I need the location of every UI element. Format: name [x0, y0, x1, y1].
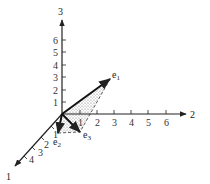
- vector-e1-subscript: 1: [116, 74, 120, 82]
- svg-text:e1: e1: [112, 69, 120, 82]
- axis-3-label: 3: [58, 6, 63, 17]
- axis-2-tick-5: 5: [146, 117, 151, 128]
- vector-e2-subscript: 2: [57, 141, 61, 149]
- axis-3-tick-5: 5: [53, 47, 58, 58]
- axis-2-label: 2: [190, 109, 195, 120]
- vector-e3-subscript: 3: [87, 134, 91, 142]
- axis-3-tick-4: 4: [53, 60, 58, 71]
- axis-2-tick-4: 4: [129, 117, 134, 128]
- axis-3-tick-2: 2: [53, 85, 58, 96]
- axis-3-tick-1: 1: [53, 97, 58, 108]
- axis-1: 1 2 3 4 1: [6, 114, 62, 182]
- axis-2-tick-1: 1: [78, 117, 83, 128]
- axis-3: 1 2 3 4 5 6 3: [53, 6, 66, 114]
- axis-3-tick-6: 6: [53, 35, 58, 46]
- svg-text:e2: e2: [53, 136, 61, 149]
- axis-1-label: 1: [6, 171, 11, 182]
- shaded-region: [58, 79, 110, 133]
- axis-1-tick-3: 3: [38, 147, 43, 158]
- axis-2-tick-6: 6: [164, 117, 169, 128]
- svg-text:e3: e3: [83, 129, 91, 142]
- axis-3-tick-3: 3: [53, 72, 58, 83]
- diagram-canvas: 1 2 3 4 5 6 3 1 2 3 4 5 6 2 1 2 3 4 1: [0, 0, 210, 184]
- axis-2-tick-2: 2: [95, 117, 100, 128]
- axis-2-tick-3: 3: [112, 117, 117, 128]
- axis-1-tick-2: 2: [44, 139, 49, 150]
- axis-1-tick-4: 4: [29, 154, 34, 165]
